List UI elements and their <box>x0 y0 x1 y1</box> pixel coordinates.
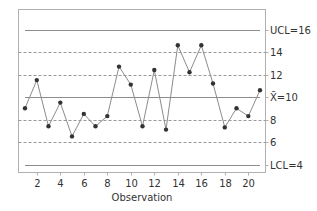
ref-label-5: 6 <box>270 137 276 148</box>
x-axis-title: Observation <box>112 192 173 203</box>
plot-frame <box>19 10 266 173</box>
data-point <box>82 112 86 116</box>
data-point <box>152 68 156 72</box>
data-point <box>258 88 262 92</box>
data-point <box>70 134 74 138</box>
y-axis-labels: UCL=161412X̄=1086LCL=4 <box>270 25 311 171</box>
ref-label-6: LCL=4 <box>270 160 303 171</box>
ref-label-3: X̄=10 <box>270 91 298 103</box>
data-point <box>46 124 50 128</box>
x-tick-label: 18 <box>219 178 232 189</box>
data-point <box>234 106 238 110</box>
ref-label-4: 8 <box>270 115 276 126</box>
data-point <box>58 100 62 104</box>
ref-label-1: 14 <box>270 47 283 58</box>
x-tick-label: 10 <box>125 178 138 189</box>
x-tick-label: 16 <box>195 178 208 189</box>
data-point <box>35 78 39 82</box>
x-tick-label: 8 <box>104 178 110 189</box>
data-point <box>164 127 168 131</box>
data-point <box>223 125 227 129</box>
x-axis-labels: 2468101214161820 <box>34 178 255 189</box>
x-tick-label: 4 <box>57 178 63 189</box>
x-tick-label: 14 <box>172 178 185 189</box>
data-point <box>199 43 203 47</box>
data-point <box>23 106 27 110</box>
data-point <box>176 43 180 47</box>
data-point <box>105 114 109 118</box>
control-chart: UCL=161412X̄=1086LCL=4 2468101214161820 … <box>0 0 317 211</box>
x-tick-label: 12 <box>148 178 161 189</box>
data-point <box>93 124 97 128</box>
data-point <box>117 64 121 68</box>
data-point <box>129 82 133 86</box>
data-point <box>246 114 250 118</box>
ref-label-0: UCL=16 <box>270 25 311 36</box>
x-tick-label: 6 <box>81 178 87 189</box>
x-tick-label: 2 <box>34 178 40 189</box>
data-point <box>211 81 215 85</box>
x-tick-label: 20 <box>242 178 255 189</box>
data-point <box>140 124 144 128</box>
data-point <box>187 70 191 74</box>
ref-label-2: 12 <box>270 70 283 81</box>
